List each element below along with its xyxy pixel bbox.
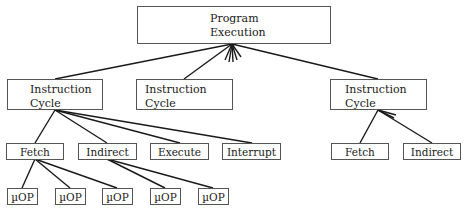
micro-op-node-1: µOP xyxy=(7,188,38,205)
fetch-node: Fetch xyxy=(6,143,64,160)
micro-op-label: µOP xyxy=(106,191,129,203)
instruction-cycle-node-2: Instruction Cycle xyxy=(136,79,233,110)
ic2-label-line2: Cycle xyxy=(145,97,232,111)
micro-op-node-2: µOP xyxy=(55,188,86,205)
micro-op-label: µOP xyxy=(154,191,177,203)
execute-label: Execute xyxy=(158,146,201,158)
interrupt-label: Interrupt xyxy=(227,146,276,158)
micro-op-label: µOP xyxy=(59,191,82,203)
micro-op-label: µOP xyxy=(11,191,34,203)
right-fetch-node: Fetch xyxy=(331,143,389,160)
root-label-line1: Program xyxy=(138,12,330,26)
execute-node: Execute xyxy=(150,143,209,160)
ic2-label-line1: Instruction xyxy=(145,83,232,97)
indirect-label: Indirect xyxy=(86,146,128,158)
ic3-label-line1: Instruction xyxy=(345,83,426,97)
micro-op-node-3: µOP xyxy=(102,188,133,205)
instruction-cycle-node-3: Instruction Cycle xyxy=(330,79,427,110)
right-indirect-label: Indirect xyxy=(411,146,453,158)
fetch-label: Fetch xyxy=(20,146,50,158)
program-execution-node: Program Execution xyxy=(137,6,331,44)
interrupt-node: Interrupt xyxy=(222,143,281,160)
ic1-label-line2: Cycle xyxy=(30,97,102,111)
root-label-line2: Execution xyxy=(138,26,330,40)
ic3-label-line2: Cycle xyxy=(345,97,426,111)
ic1-label-line1: Instruction xyxy=(30,83,102,97)
instruction-cycle-node-1: Instruction Cycle xyxy=(7,79,103,110)
right-indirect-node: Indirect xyxy=(403,143,461,160)
indirect-node: Indirect xyxy=(78,143,137,160)
micro-op-node-4: µOP xyxy=(150,188,181,205)
micro-op-label: µOP xyxy=(202,191,225,203)
right-fetch-label: Fetch xyxy=(345,146,375,158)
micro-op-node-5: µOP xyxy=(198,188,229,205)
